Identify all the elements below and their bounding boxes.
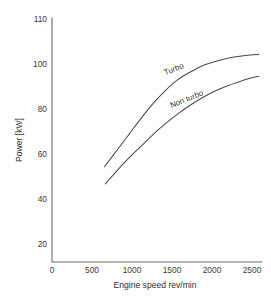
x-tick-label: 1500 — [163, 265, 182, 275]
chart-page: 110 100 80 60 40 20 0 500 1000 1500 2000… — [0, 0, 271, 303]
x-tick-label: 2000 — [203, 265, 222, 275]
y-tick-label: 20 — [38, 239, 48, 249]
y-tick-label: 110 — [34, 14, 48, 24]
power-vs-engine-speed-chart: 110 100 80 60 40 20 0 500 1000 1500 2000… — [0, 0, 271, 303]
x-tick-label: 500 — [85, 265, 99, 275]
y-tick-label: 60 — [38, 149, 48, 159]
y-tick-label: 40 — [38, 194, 48, 204]
y-tick-label: 100 — [33, 59, 47, 69]
x-tick-label: 2500 — [243, 265, 262, 275]
axis-lines — [52, 18, 262, 262]
x-axis-tick-labels: 0 500 1000 1500 2000 2500 — [50, 265, 262, 275]
x-tick-label: 1000 — [123, 265, 142, 275]
y-axis-title: Power [kW] — [14, 118, 24, 162]
y-tick-label: 80 — [38, 104, 48, 114]
non-turbo-curve — [105, 76, 258, 184]
x-axis-title: Engine speed rev/min — [113, 280, 196, 290]
x-tick-label: 0 — [50, 265, 55, 275]
turbo-series-label: Turbo — [163, 61, 186, 77]
y-axis-tick-labels: 110 100 80 60 40 20 — [33, 14, 47, 249]
